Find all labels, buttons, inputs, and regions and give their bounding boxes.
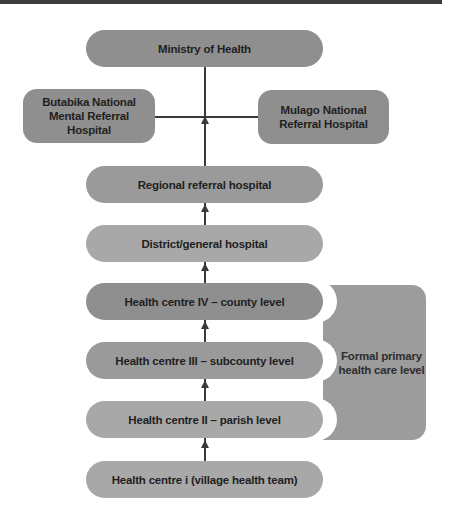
- node-regional-referral-hospital: Regional referral hospital: [86, 166, 323, 203]
- arrow-up-icon: [201, 263, 209, 271]
- node-mulago-hospital: Mulago National Referral Hospital: [258, 90, 389, 144]
- node-ministry-of-health: Ministry of Health: [86, 30, 323, 67]
- arrow-up-icon: [201, 380, 209, 388]
- primary-care-bracket: Formal primary health care level: [323, 285, 426, 440]
- arrow-up-icon: [201, 440, 209, 448]
- arrow-up-icon: [201, 321, 209, 329]
- bracket-label: Formal primary health care level: [337, 349, 426, 377]
- node-health-centre-iii: Health centre III – subcounty level: [86, 342, 323, 379]
- node-health-centre-iv: Health centre IV – county level: [86, 283, 323, 320]
- top-rule: [0, 0, 442, 4]
- node-health-centre-i: Health centre i (village health team): [86, 461, 323, 498]
- node-butabika-hospital: Butabika National Mental Referral Hospit…: [23, 89, 155, 143]
- arrow-up-icon: [201, 116, 209, 124]
- node-health-centre-ii: Health centre II – parish level: [86, 401, 323, 438]
- arrow-up-icon: [201, 204, 209, 212]
- node-district-hospital: District/general hospital: [86, 225, 323, 262]
